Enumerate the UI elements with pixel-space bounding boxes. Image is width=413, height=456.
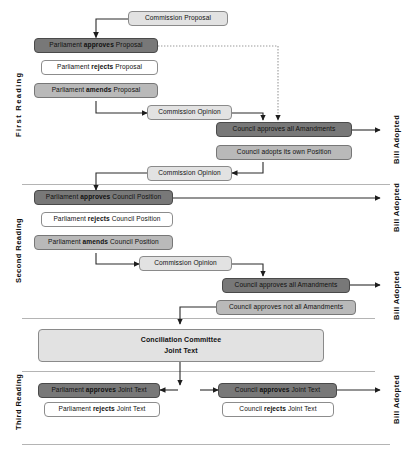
section-divider-3 xyxy=(22,371,375,372)
node-council-approves-joint-text[interactable]: Council approves Joint Text xyxy=(218,383,337,398)
conciliation-subtitle: Joint Text xyxy=(164,346,198,356)
node-label: Parliament rejects Proposal xyxy=(57,63,142,71)
section-divider-2 xyxy=(22,318,375,319)
node-parliament-approves-proposal[interactable]: Parliament approves Proposal xyxy=(34,38,158,53)
node-label: Commission Opinion xyxy=(158,169,221,177)
flowchart-diagram: First Reading Commission Proposal Parlia… xyxy=(0,0,413,456)
node-label: Parliament amends Proposal xyxy=(52,86,141,94)
node-council-adopts-own-position[interactable]: Council adopts its own Position xyxy=(216,145,352,160)
outcome-label-bill-adopted-4: Bill Adopted xyxy=(392,375,401,424)
node-council-approves-all-amendments-2[interactable]: Council approves all Amandments xyxy=(222,278,350,293)
section-label-third-reading: Third Reading xyxy=(14,374,23,430)
node-label: Council approves all Amandments xyxy=(233,125,336,133)
node-label: Council adopts its own Position xyxy=(237,148,331,156)
node-council-approves-all-amendments-1[interactable]: Council approves all Amandments xyxy=(216,122,352,137)
node-parliament-rejects-joint-text[interactable]: Parliament rejects Joint Text xyxy=(44,402,160,417)
node-label: Parliament rejects Joint Text xyxy=(58,405,145,413)
node-label: Council approves not all Amandments xyxy=(229,303,343,311)
section-divider-1 xyxy=(22,184,390,185)
outcome-label-bill-adopted-1: Bill Adopted xyxy=(392,115,401,164)
section-divider-4 xyxy=(22,444,390,445)
node-council-approves-not-all-amendments[interactable]: Council approves not all Amandments xyxy=(216,300,356,315)
node-parliament-rejects-council-position[interactable]: Parliament rejects Council Position xyxy=(41,212,173,227)
node-label: Parliament amends Council Position xyxy=(48,238,159,246)
node-commission-proposal[interactable]: Commission Proposal xyxy=(128,11,228,26)
node-label: Council approves Joint Text xyxy=(235,386,320,394)
node-label: Council rejects Joint Text xyxy=(239,405,316,413)
node-label: Commission Proposal xyxy=(145,14,211,22)
node-parliament-amends-proposal[interactable]: Parliament amends Proposal xyxy=(34,83,158,98)
node-label: Commission Opinion xyxy=(158,108,221,116)
node-parliament-approves-council-position[interactable]: Parliament approves Council Position xyxy=(34,190,173,205)
node-label: Parliament approves Council Position xyxy=(46,193,161,201)
section-label-second-reading: Second Reading xyxy=(14,218,23,283)
conciliation-title: Conciliation Committee xyxy=(141,335,221,345)
node-label: Parliament approves Proposal xyxy=(49,41,142,49)
node-parliament-approves-joint-text[interactable]: Parliament approves Joint Text xyxy=(38,383,160,398)
node-parliament-rejects-proposal[interactable]: Parliament rejects Proposal xyxy=(41,60,158,75)
node-commission-opinion-1[interactable]: Commission Opinion xyxy=(147,105,232,120)
node-council-rejects-joint-text[interactable]: Council rejects Joint Text xyxy=(222,402,334,417)
outcome-label-bill-adopted-3: Bill Adopted xyxy=(392,271,401,320)
section-label-first-reading: First Reading xyxy=(14,72,23,137)
node-commission-opinion-3[interactable]: Commission Opinion xyxy=(139,256,232,271)
node-conciliation-committee[interactable]: Conciliation Committee Joint Text xyxy=(38,329,324,362)
outcome-label-bill-adopted-2: Bill Adopted xyxy=(392,183,401,232)
node-label: Council approves all Amandments xyxy=(235,281,338,289)
node-parliament-amends-council-position[interactable]: Parliament amends Council Position xyxy=(34,235,173,250)
node-label: Commission Opinion xyxy=(154,259,217,267)
node-commission-opinion-2[interactable]: Commission Opinion xyxy=(147,166,232,181)
node-label: Parliament approves Joint Text xyxy=(51,386,146,394)
node-label: Parliament rejects Council Position xyxy=(53,215,160,223)
